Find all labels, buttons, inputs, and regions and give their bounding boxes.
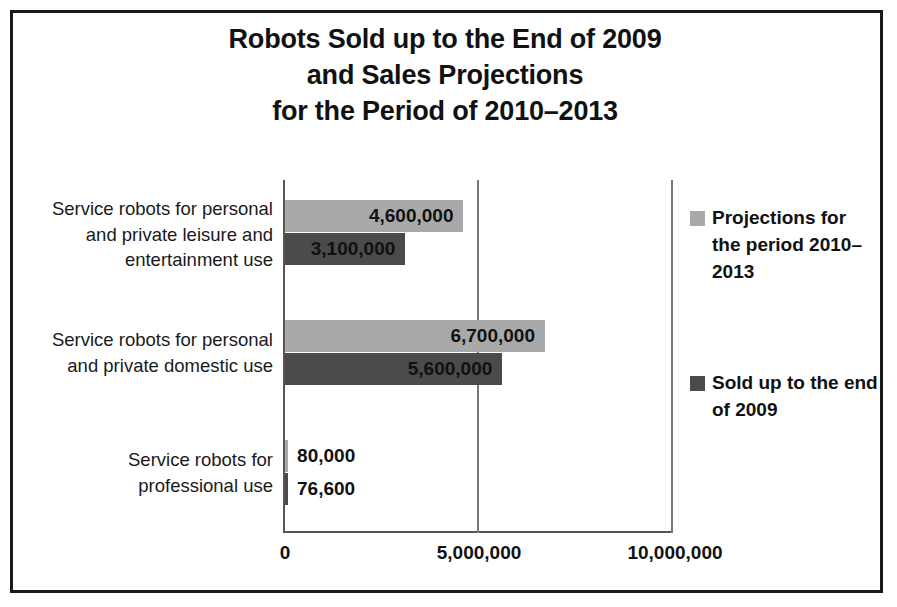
category-label-leisure: Service robots for personal and private … bbox=[8, 196, 273, 273]
legend-item-projections[interactable]: Projections for the period 2010– 2013 bbox=[690, 205, 890, 286]
bar-value-professional-sold: 76,600 bbox=[288, 473, 355, 505]
legend-label-projections-line-3: 2013 bbox=[712, 259, 862, 286]
legend-label-projections: Projections for the period 2010– 2013 bbox=[712, 205, 862, 286]
legend-label-sold-line-2: of 2009 bbox=[712, 397, 878, 424]
category-label-professional-line-1: Service robots for bbox=[8, 447, 273, 473]
bar-value-leisure-sold: 3,100,000 bbox=[285, 233, 405, 265]
legend-label-projections-line-1: Projections for bbox=[712, 205, 862, 232]
bar-value-professional-projections: 80,000 bbox=[288, 440, 355, 472]
category-label-leisure-line-1: Service robots for personal bbox=[8, 196, 273, 222]
plot-area: 4,600,000 3,100,000 6,700,000 5,600,000 … bbox=[283, 180, 673, 533]
legend-label-sold: Sold up to the end of 2009 bbox=[712, 370, 878, 424]
chart-title: Robots Sold up to the End of 2009 and Sa… bbox=[60, 22, 830, 130]
legend-swatch-projections-icon bbox=[690, 211, 705, 226]
category-label-leisure-line-3: entertainment use bbox=[8, 247, 273, 273]
chart-title-line-1: Robots Sold up to the End of 2009 bbox=[60, 22, 830, 58]
legend-label-projections-line-2: the period 2010– bbox=[712, 232, 862, 259]
category-label-domestic-line-1: Service robots for personal bbox=[8, 327, 273, 353]
legend-item-sold[interactable]: Sold up to the end of 2009 bbox=[690, 370, 890, 424]
bar-value-domestic-sold: 5,600,000 bbox=[285, 353, 502, 385]
bar-value-leisure-projections: 4,600,000 bbox=[285, 200, 463, 232]
category-label-professional: Service robots for professional use bbox=[8, 447, 273, 498]
bar-group-professional: 80,000 76,600 bbox=[283, 440, 673, 510]
xtick-label-0: 0 bbox=[280, 542, 291, 564]
legend-swatch-sold-icon bbox=[690, 376, 705, 391]
category-label-domestic-line-2: and private domestic use bbox=[8, 353, 273, 379]
chart-title-line-2: and Sales Projections bbox=[60, 58, 830, 94]
category-label-leisure-line-2: and private leisure and bbox=[8, 222, 273, 248]
category-label-domestic: Service robots for personal and private … bbox=[8, 327, 273, 378]
xtick-label-10000000: 10,000,000 bbox=[627, 542, 722, 564]
chart-title-line-3: for the Period of 2010–2013 bbox=[60, 94, 830, 130]
bar-group-domestic: 6,700,000 5,600,000 bbox=[283, 320, 673, 390]
bar-value-domestic-projections: 6,700,000 bbox=[285, 320, 545, 352]
xtick-label-5000000: 5,000,000 bbox=[437, 542, 522, 564]
bar-group-leisure: 4,600,000 3,100,000 bbox=[283, 200, 673, 270]
category-axis-labels: Service robots for personal and private … bbox=[8, 180, 273, 533]
legend-label-sold-line-1: Sold up to the end bbox=[712, 370, 878, 397]
chart-figure: Robots Sold up to the End of 2009 and Sa… bbox=[0, 0, 897, 607]
category-label-professional-line-2: professional use bbox=[8, 473, 273, 499]
